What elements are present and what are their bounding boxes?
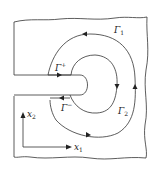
label-gamma-minus: Γ− [60, 101, 72, 113]
label-gamma2: Γ2 [117, 106, 128, 117]
label-x2: x2 [27, 109, 36, 120]
arrow-gamma2-right [115, 84, 120, 89]
label-gamma-plus: Γ+ [54, 61, 66, 73]
crack-contour-diagram: Γ1 Γ2 Γ+ Γ− x2 x1 [0, 0, 161, 171]
arrow-gamma1-right [133, 84, 138, 89]
axis-x1-arrowhead [66, 145, 72, 150]
label-gamma1: Γ1 [113, 25, 124, 36]
contour-gamma1 [48, 34, 135, 137]
arrow-gamma-plus [57, 73, 62, 78]
crack [14, 75, 88, 95]
arrow-gamma1-top [82, 32, 87, 37]
body-outline [14, 17, 148, 159]
arrow-gamma-minus [59, 96, 64, 101]
label-x1: x1 [74, 142, 83, 153]
axis-x2-arrowhead [21, 112, 26, 118]
contour-gamma2 [70, 55, 117, 113]
